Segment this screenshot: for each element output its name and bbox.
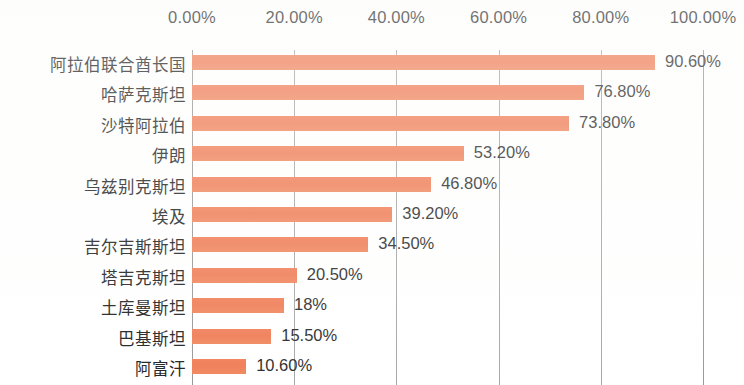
bar[interactable] bbox=[192, 85, 584, 100]
category-label: 巴基斯坦 bbox=[0, 326, 186, 350]
category-label: 阿富汗 bbox=[0, 356, 186, 380]
bar-value-label: 10.60% bbox=[256, 356, 312, 375]
bar-row: 10.60% bbox=[192, 354, 703, 384]
bar[interactable] bbox=[192, 177, 431, 192]
category-label: 阿拉伯联合酋长国 bbox=[0, 52, 186, 76]
plot-area: 90.60%76.80%73.80%53.20%46.80%39.20%34.5… bbox=[192, 50, 703, 385]
bar-row: 34.50% bbox=[192, 232, 703, 262]
bar-row: 73.80% bbox=[192, 111, 703, 141]
bar[interactable] bbox=[192, 146, 464, 161]
bar-value-label: 20.50% bbox=[307, 265, 363, 284]
bar[interactable] bbox=[192, 116, 569, 131]
bar[interactable] bbox=[192, 268, 297, 283]
bar[interactable] bbox=[192, 55, 655, 70]
bar-value-label: 39.20% bbox=[402, 204, 458, 223]
x-axis-tick-label: 100.00% bbox=[670, 8, 737, 27]
bar-value-label: 46.80% bbox=[441, 174, 497, 193]
category-label: 伊朗 bbox=[0, 143, 186, 167]
x-axis-tick-label: 80.00% bbox=[572, 8, 629, 27]
category-label: 埃及 bbox=[0, 204, 186, 228]
x-axis-tick-label: 20.00% bbox=[266, 8, 323, 27]
bar-value-label: 76.80% bbox=[594, 82, 650, 101]
bar-row: 46.80% bbox=[192, 172, 703, 202]
category-label: 乌兹别克斯坦 bbox=[0, 174, 186, 198]
category-label: 塔吉克斯坦 bbox=[0, 265, 186, 289]
category-label: 吉尔吉斯斯坦 bbox=[0, 234, 186, 258]
bar[interactable] bbox=[192, 359, 246, 374]
bar-row: 20.50% bbox=[192, 263, 703, 293]
x-axis-tick-label: 60.00% bbox=[470, 8, 527, 27]
y-axis-category-labels: 阿拉伯联合酋长国哈萨克斯坦沙特阿拉伯伊朗乌兹别克斯坦埃及吉尔吉斯斯坦塔吉克斯坦土… bbox=[0, 50, 186, 385]
bar[interactable] bbox=[192, 329, 271, 344]
category-label: 哈萨克斯坦 bbox=[0, 82, 186, 106]
bar-row: 15.50% bbox=[192, 324, 703, 354]
x-axis-tick-label: 0.00% bbox=[168, 8, 216, 27]
bar-value-label: 53.20% bbox=[474, 143, 530, 162]
bar[interactable] bbox=[192, 237, 368, 252]
bar-value-label: 34.50% bbox=[378, 234, 434, 253]
bar-value-label: 15.50% bbox=[281, 326, 337, 345]
category-label: 沙特阿拉伯 bbox=[0, 113, 186, 137]
bar-row: 18% bbox=[192, 293, 703, 323]
bar-row: 90.60% bbox=[192, 50, 703, 80]
bar-value-label: 18% bbox=[294, 295, 327, 314]
bar-row: 39.20% bbox=[192, 202, 703, 232]
category-label: 土库曼斯坦 bbox=[0, 295, 186, 319]
bar-row: 76.80% bbox=[192, 80, 703, 110]
gridline bbox=[703, 50, 704, 385]
bar-row: 53.20% bbox=[192, 141, 703, 171]
bar-value-label: 73.80% bbox=[579, 113, 635, 132]
horizontal-bar-chart: 0.00%20.00%40.00%60.00%80.00%100.00% 阿拉伯… bbox=[0, 0, 744, 385]
bar-value-label: 90.60% bbox=[665, 52, 721, 71]
x-axis-tick-label: 40.00% bbox=[368, 8, 425, 27]
bar[interactable] bbox=[192, 298, 284, 313]
bar[interactable] bbox=[192, 207, 392, 222]
